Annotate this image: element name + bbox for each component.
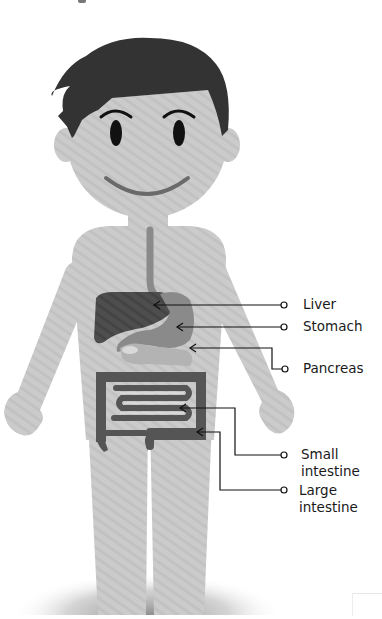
corner-fragment — [352, 593, 382, 616]
label-large-intestine-line1: Large — [299, 482, 337, 499]
cropped-text-fragment — [78, 0, 86, 3]
label-small-intestine-line1: Small — [301, 446, 339, 463]
label-stomach: Stomach — [303, 318, 363, 335]
left-arm — [4, 261, 86, 436]
label-small-intestine-line2: intestine — [301, 463, 360, 480]
right-eye — [173, 120, 185, 146]
label-liver: Liver — [303, 296, 336, 313]
floor-shadow — [13, 573, 283, 615]
label-pancreas: Pancreas — [303, 360, 364, 377]
label-large-intestine-line2: intestine — [299, 499, 358, 516]
left-eye — [110, 120, 122, 146]
